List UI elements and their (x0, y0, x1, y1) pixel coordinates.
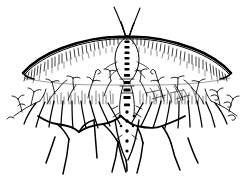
abdomen-segment (124, 89, 131, 92)
figure-root: Moth specimen line drawing (0, 0, 251, 185)
background-plate (0, 0, 251, 185)
abdomen-segment (124, 104, 130, 107)
terminal-dot (120, 125, 123, 128)
abdomen-segment (125, 68, 130, 70)
abdomen-segment (125, 57, 130, 59)
terminal-dot (125, 139, 128, 142)
terminal-dot (132, 125, 135, 128)
abdomen-segment (124, 81, 131, 84)
terminal-dot (125, 119, 128, 122)
terminal-dot (133, 115, 136, 118)
abdomen-segment (125, 52, 130, 54)
abdomen-segment (125, 46, 130, 48)
abdomen-segment (125, 41, 130, 43)
abdomen-segment (124, 96, 131, 99)
abdomen-segment (125, 63, 130, 65)
insect-illustration: Moth specimen line drawing (0, 0, 251, 185)
abdomen-segment (124, 74, 130, 77)
terminal-dot (119, 115, 122, 118)
terminal-dot (125, 129, 128, 132)
terminal-dot (125, 110, 128, 113)
terminal-dot (125, 149, 128, 152)
